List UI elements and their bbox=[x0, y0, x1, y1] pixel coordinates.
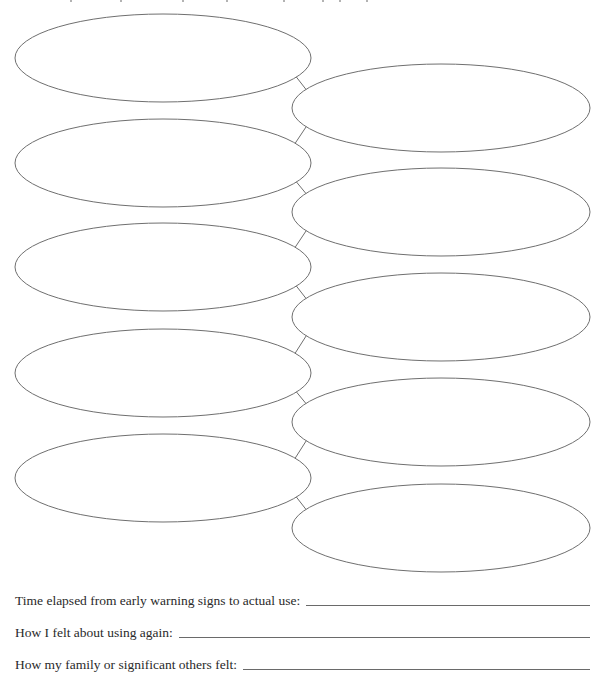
prompt-label: How my family or significant others felt… bbox=[15, 657, 237, 673]
event-oval-right-2[interactable] bbox=[292, 168, 590, 256]
right-oval-column bbox=[292, 64, 590, 572]
answer-line-family-felt[interactable] bbox=[243, 669, 590, 670]
answer-line-time-elapsed[interactable] bbox=[306, 605, 590, 606]
event-oval-right-5[interactable] bbox=[292, 484, 590, 572]
prompt-felt-about-using: How I felt about using again: bbox=[15, 621, 590, 641]
event-oval-right-3[interactable] bbox=[292, 273, 590, 361]
event-chain-diagram bbox=[0, 0, 606, 590]
prompt-label: How I felt about using again: bbox=[15, 625, 173, 641]
left-oval-column bbox=[15, 14, 311, 522]
prompt-label: Time elapsed from early warning signs to… bbox=[15, 593, 300, 609]
connector-8-9 bbox=[294, 438, 308, 460]
connector-lines bbox=[294, 74, 308, 512]
event-oval-right-1[interactable] bbox=[292, 64, 590, 152]
event-oval-left-5[interactable] bbox=[15, 434, 311, 522]
connector-6-7 bbox=[294, 333, 308, 355]
prompt-time-elapsed: Time elapsed from early warning signs to… bbox=[15, 589, 590, 609]
event-oval-left-3[interactable] bbox=[15, 223, 311, 311]
event-oval-right-4[interactable] bbox=[292, 378, 590, 466]
event-oval-left-1[interactable] bbox=[15, 14, 311, 102]
event-oval-left-4[interactable] bbox=[15, 329, 311, 417]
answer-line-felt-about-using[interactable] bbox=[179, 637, 590, 638]
event-oval-left-2[interactable] bbox=[15, 119, 311, 207]
prompt-family-felt: How my family or significant others felt… bbox=[15, 653, 590, 673]
